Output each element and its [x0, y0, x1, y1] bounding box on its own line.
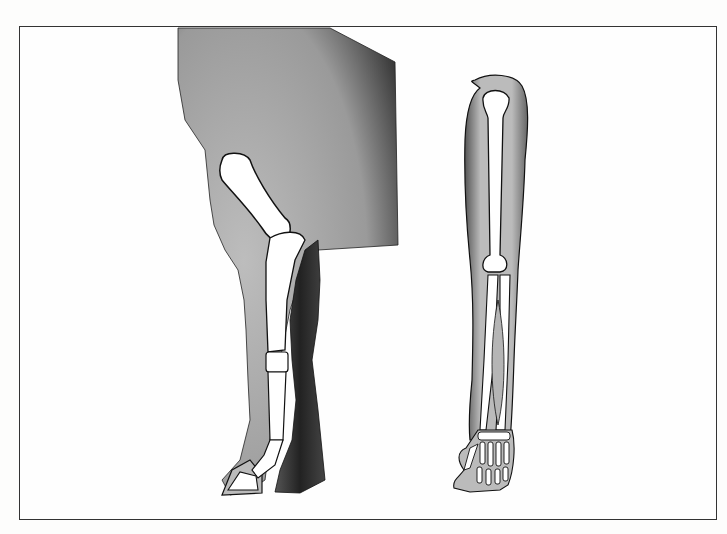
- human-arm: [454, 75, 528, 492]
- anatomy-illustration: [0, 0, 727, 534]
- horse-carpal-bones: [266, 352, 288, 372]
- horse-foreleg: [178, 28, 398, 495]
- horse-cannon-bone: [268, 372, 286, 440]
